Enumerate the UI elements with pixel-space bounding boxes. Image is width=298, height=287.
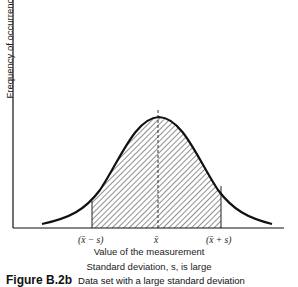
x-axis-label: Value of the measurement: [0, 246, 298, 257]
tick-mean-plus-s: (x̄ + s): [206, 235, 231, 245]
tick-mean: x̄: [154, 235, 158, 245]
caption-label: Figure B.2b: [6, 273, 72, 287]
y-axis-label: Frequency of occurrence: [4, 0, 16, 116]
caption-text: Data set with a large standard deviation: [78, 275, 245, 286]
figure-subtitle: Standard deviation, s, is large: [0, 261, 298, 272]
figure-caption: Figure B.2bData set with a large standar…: [6, 273, 245, 287]
tick-mean-minus-s: (x̄ − s): [78, 235, 103, 245]
